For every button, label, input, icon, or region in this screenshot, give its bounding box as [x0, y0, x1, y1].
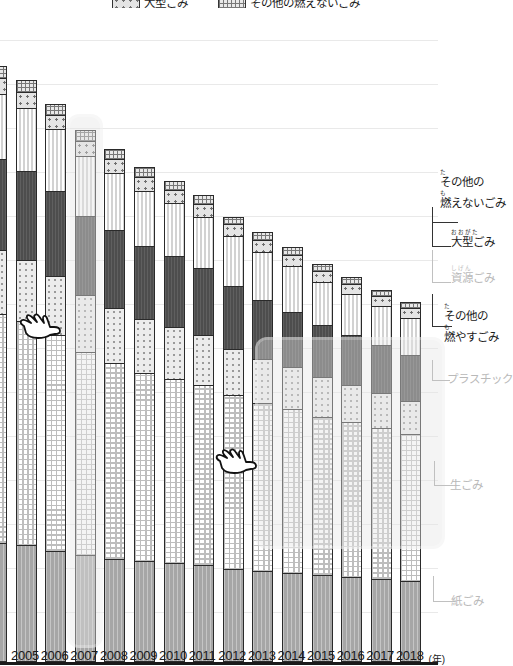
- bar-segment-sonota-moyasu: [312, 325, 333, 376]
- callout-kami: 紙ごみ: [451, 594, 484, 608]
- bar-segment-sonota-moyasu: [164, 256, 185, 327]
- callout-line-1: 生ごみ: [450, 479, 483, 491]
- bar-segment-shigen: [193, 217, 214, 268]
- bar-2010[interactable]: [164, 181, 185, 662]
- bar-segment-ogata: [104, 159, 125, 173]
- bar-segment-ogata: [193, 204, 214, 217]
- pointing-hand-cursor[interactable]: [16, 308, 66, 342]
- bar-segment-kami: [45, 551, 66, 662]
- leader-line-shigen: [432, 250, 451, 283]
- leader-line-kami: [433, 576, 453, 602]
- bar-2015[interactable]: [312, 264, 333, 662]
- bar-segment-sonota-moyasu: [223, 286, 244, 349]
- bar-segment-shigen: [312, 282, 333, 326]
- bar-segment-sonota-moenai: [252, 232, 273, 240]
- bar-2014[interactable]: [282, 247, 303, 662]
- x-axis-labels: 4200520062007200820092010201120122013201…: [0, 648, 509, 666]
- callout-purasuchikku: プラスチック: [447, 372, 513, 386]
- bar-segment-sonota-moenai: [164, 181, 185, 190]
- x-axis-tick-2009: 2009: [130, 648, 158, 663]
- leader-line-purasuchikku: [432, 360, 450, 381]
- callout-line-1: その他の: [440, 176, 484, 188]
- bar-segment-shigen: [400, 318, 421, 356]
- callout-ogata: おおがた 大型ごみ: [451, 230, 495, 249]
- bar-2011[interactable]: [193, 195, 214, 662]
- bar-segment-shigen: [252, 252, 273, 300]
- bar-segment-shigen: [16, 108, 37, 171]
- bar-segment-sonota-moyasu: [45, 191, 66, 276]
- bar-segment-sonota-moenai: [312, 264, 333, 271]
- bar-segment-nama: [0, 314, 7, 544]
- bar-segment-sonota-moyasu: [341, 335, 362, 385]
- bar-segment-nama: [104, 363, 125, 559]
- bar-segment-nama: [45, 335, 66, 551]
- legend-label-ogata: 大型ごみ: [144, 0, 188, 8]
- bar-2009[interactable]: [134, 167, 155, 662]
- bar-segment-nama: [75, 352, 96, 555]
- x-axis-tick-2012: 2012: [218, 648, 246, 663]
- legend-swatch-ogata: [112, 0, 140, 8]
- bar-segment-purasuchikku: [104, 308, 125, 363]
- bar-segment-nama: [134, 373, 155, 561]
- bar-segment-ogata: [75, 141, 96, 156]
- bar-segment-sonota-moenai: [341, 277, 362, 284]
- callout-sonota-moyasu: た その他の も 燃やすごみ: [444, 304, 499, 345]
- bar-segment-shigen: [75, 156, 96, 215]
- bar-segment-ogata: [400, 308, 421, 318]
- leader-line-moyasu: [432, 294, 452, 327]
- bar-segment-ogata: [252, 240, 273, 252]
- legend-label-moenai: その他の燃えないごみ: [250, 0, 360, 8]
- bar-segment-sonota-moenai: [134, 167, 155, 177]
- x-axis-tick-2007: 2007: [70, 648, 98, 663]
- bar-segment-purasuchikku: [0, 250, 7, 313]
- bar-segment-sonota-moyasu: [282, 312, 303, 367]
- bar-2016[interactable]: [341, 277, 362, 662]
- callout-line-1: 資源ごみ: [451, 272, 495, 284]
- bar-segment-purasuchikku: [252, 359, 273, 403]
- legend-item-ogata: 大型ごみ: [112, 0, 188, 8]
- bar-segment-sonota-moenai: [104, 149, 125, 159]
- bar-2017[interactable]: [371, 290, 392, 662]
- bar-segment-kami: [16, 545, 37, 662]
- bar-segment-kami: [104, 559, 125, 662]
- bar-segment-kami: [75, 555, 96, 662]
- bar-segment-sonota-moenai: [193, 195, 214, 204]
- bar-segment-kami: [134, 561, 155, 662]
- bar-segment-shigen: [45, 129, 66, 190]
- bar-segment-purasuchikku: [223, 349, 244, 395]
- leader-line-ogata: [432, 216, 451, 247]
- bar-segment-shigen: [282, 266, 303, 312]
- callout-nama: 生ごみ: [450, 478, 483, 492]
- pointing-hand-cursor[interactable]: [212, 443, 262, 477]
- bar-segment-ogata: [134, 177, 155, 191]
- bar-2018[interactable]: [400, 302, 421, 662]
- chart-legend: 大型ごみ その他の燃えないごみ: [0, 0, 509, 8]
- bar-segment-purasuchikku: [193, 335, 214, 385]
- callout-sonota-moenai: た その他の も 燃えないごみ: [440, 170, 506, 211]
- bar-2004[interactable]: [0, 66, 7, 662]
- callout-shigen: しげん 資源ごみ: [451, 266, 495, 285]
- bar-segment-sonota-moenai: [223, 217, 244, 225]
- bar-segment-shigen: [341, 294, 362, 336]
- bar-segment-sonota-moyasu: [371, 345, 392, 393]
- x-axis-tick-2005: 2005: [11, 648, 39, 663]
- bar-segment-ogata: [341, 284, 362, 294]
- bar-segment-shigen: [223, 236, 244, 286]
- bar-segment-sonota-moenai: [16, 80, 37, 92]
- bar-segment-sonota-moenai: [45, 104, 66, 115]
- bar-segment-sonota-moyasu: [134, 246, 155, 319]
- gridline: [0, 84, 438, 85]
- bar-segment-purasuchikku: [312, 377, 333, 417]
- bar-segment-purasuchikku: [371, 393, 392, 429]
- bar-2012[interactable]: [223, 217, 244, 662]
- bar-segment-sonota-moyasu: [400, 355, 421, 401]
- bar-segment-shigen: [371, 306, 392, 346]
- bar-segment-nama: [164, 379, 185, 563]
- bar-2008[interactable]: [104, 149, 125, 662]
- bar-2007[interactable]: [75, 130, 96, 662]
- bar-2005[interactable]: [16, 80, 37, 662]
- bar-2006[interactable]: [45, 104, 66, 662]
- bar-segment-nama: [223, 395, 244, 569]
- bar-segment-ogata: [223, 224, 244, 236]
